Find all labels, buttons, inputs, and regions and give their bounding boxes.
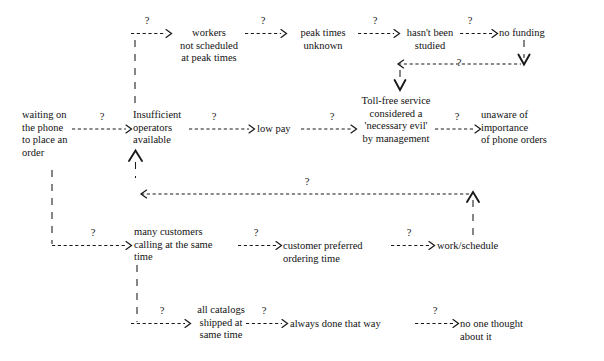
link-label-always-noonethought: ? (428, 306, 442, 317)
link-label-preferred-workschedule: ? (402, 228, 416, 239)
node-preferred: customer preferred ordering time (283, 240, 395, 265)
connector-notstudied-nofunding (460, 30, 498, 38)
link-label-peaktimes-notstudied: ? (368, 16, 382, 27)
link-label-workschedule-insufficient: ? (300, 177, 314, 188)
connector-catalogs-always (246, 320, 288, 328)
node-unaware: unaware of importance of phone orders (481, 109, 591, 147)
node-insufficient: Insufficient operators available (133, 109, 195, 147)
node-nofunding: no funding (499, 27, 589, 40)
connector-peaktimes-notstudied (358, 30, 400, 38)
connector-manycustomers-preferred (238, 242, 282, 250)
link-label-manycustomers-preferred: ? (249, 228, 263, 239)
link-label-waiting-insufficient: ? (95, 112, 109, 123)
link-label-tollfree-unaware: ? (450, 112, 464, 123)
node-tollfree: Toll-free service considered a 'necessar… (353, 95, 439, 145)
node-manycustomers: many customers calling at the same time (134, 226, 242, 264)
connector-insufficient-lowpay (189, 125, 255, 133)
link-label-insufficient-lowpay: ? (207, 112, 221, 123)
link-label-waiting-manycustomers: ? (86, 228, 100, 239)
node-lowpay: low pay (257, 123, 307, 136)
connector-lowpay-tollfree (301, 125, 357, 133)
node-workers: workers not scheduled at peak times (172, 27, 246, 65)
node-always: always done that way (290, 318, 420, 331)
connector-manycustomers-catalogs (131, 265, 191, 327)
node-peaktimes: peak times unknown (288, 27, 358, 52)
connector-into-tollfree (395, 70, 406, 90)
connector-feedback-into-insufficient (129, 151, 142, 179)
link-label-lowpay-tollfree: ? (325, 112, 339, 123)
connector-always-noonethought (415, 320, 459, 328)
link-label-nofunding-feedback: ? (452, 58, 466, 69)
cause-effect-diagram: workers not scheduled at peak times peak… (0, 0, 604, 361)
node-catalogs: all catalogs shipped at same time (191, 304, 251, 342)
link-label-manycustomers-catalogs: ? (155, 306, 169, 317)
connector-preferred-workschedule (391, 242, 435, 250)
link-label-catalogs-always: ? (257, 306, 271, 317)
connector-tollfree-unaware (435, 125, 481, 133)
link-label-start-row1: ? (140, 16, 154, 27)
link-label-workers-peaktimes: ? (256, 16, 270, 27)
node-noonethought: no one thought about it (460, 318, 550, 343)
connector-start-row1 (131, 30, 172, 38)
node-workschedule: work/schedule (437, 240, 527, 253)
link-label-notstudied-nofunding: ? (463, 16, 477, 27)
node-waiting: waiting on the phone to place an order (22, 109, 82, 159)
connector-workers-peaktimes (245, 30, 287, 38)
node-notstudied: hasn't been studied (400, 27, 460, 52)
